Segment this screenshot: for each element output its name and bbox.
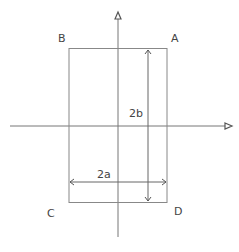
x-axis-arrow-icon (225, 123, 232, 129)
corner-label-d: D (174, 205, 182, 218)
height-label: 2b (129, 107, 143, 120)
corner-label-a: A (171, 32, 179, 45)
corner-label-c: C (47, 207, 55, 220)
corner-label-b: B (58, 32, 66, 45)
width-label: 2a (97, 168, 111, 181)
y-axis-arrow-icon (115, 12, 121, 19)
rectangle-diagram: B A C D 2b 2a (0, 0, 239, 252)
